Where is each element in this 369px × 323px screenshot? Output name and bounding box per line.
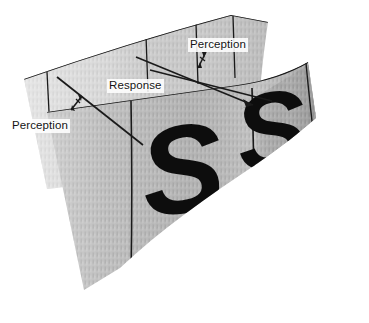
perception-label-right: Perception [188,38,248,52]
front-fold-1 [131,101,132,276]
perception-label-left: Perception [10,119,70,133]
response-label: Response [107,79,164,93]
figure-canvas: S S′ [0,0,369,323]
stimulus-panel-figure: S S′ Perception Respon [0,0,369,323]
